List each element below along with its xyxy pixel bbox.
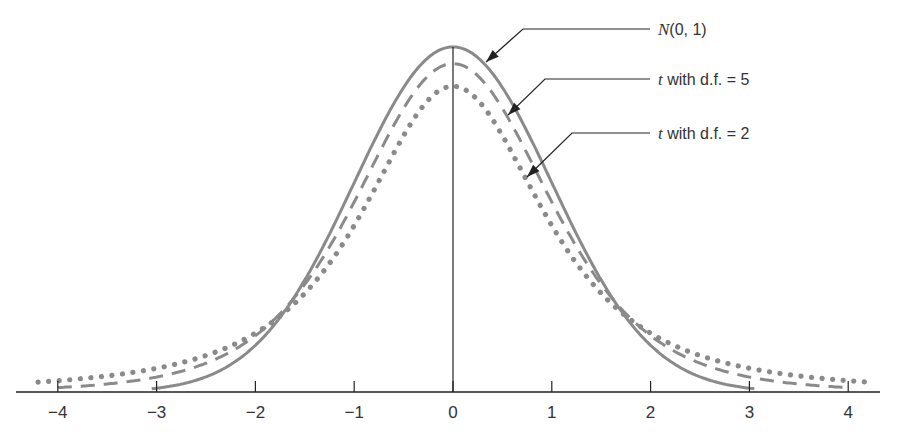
leader-line: [508, 79, 650, 115]
x-tick-label: 4: [843, 403, 852, 422]
x-tick-label: −2: [246, 403, 265, 422]
x-tick-label: 2: [646, 403, 655, 422]
t-vs-normal-density-chart: −4−3−2−101234 N(0, 1)t with d.f. = 5t wi…: [0, 0, 910, 443]
series-label: t with d.f. = 2: [658, 124, 750, 143]
x-tick-label: 1: [547, 403, 556, 422]
x-tick-label: 0: [448, 403, 457, 422]
series-label: t with d.f. = 5: [658, 70, 750, 89]
x-tick-label: 3: [745, 403, 754, 422]
leader-line: [486, 29, 650, 62]
x-tick-label: −1: [345, 403, 364, 422]
series-label: N(0, 1): [657, 20, 707, 39]
x-tick-label: −4: [48, 403, 67, 422]
curve-t-df5: [58, 64, 844, 388]
x-tick-label: −3: [147, 403, 166, 422]
